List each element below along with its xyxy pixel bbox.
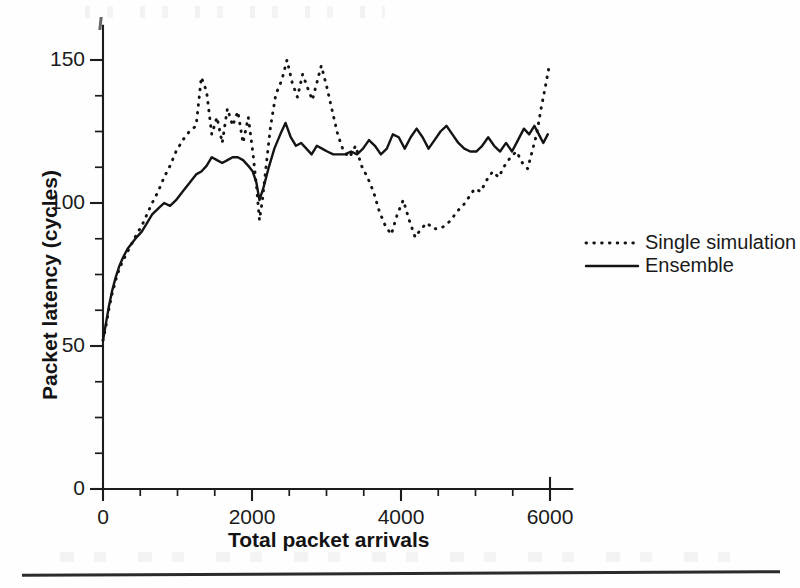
y-tick-label-150: 150: [3, 47, 85, 71]
x-tick-label-6000: 6000: [505, 505, 595, 529]
figure-page: 0 50 100 150 0 2000 4000 6000 Packet lat…: [0, 0, 800, 588]
x-tick-label-4000: 4000: [356, 505, 446, 529]
chart-series: [103, 60, 549, 340]
y-tick-label-0: 0: [3, 476, 85, 500]
x-axis-title: Total packet arrivals: [228, 528, 430, 552]
x-tick-label-2000: 2000: [207, 505, 297, 529]
series-single-simulation: [103, 60, 549, 340]
legend-label-single-simulation: Single simulation: [645, 231, 796, 254]
legend-label-ensemble: Ensemble: [645, 254, 734, 277]
series-ensemble: [103, 123, 548, 340]
x-tick-label-0: 0: [58, 505, 148, 529]
chart-axes: [90, 26, 572, 501]
chart-plot-area: [0, 0, 800, 588]
y-axis-title: Packet latency (cycles): [38, 170, 62, 400]
legend-swatches: [586, 243, 638, 266]
